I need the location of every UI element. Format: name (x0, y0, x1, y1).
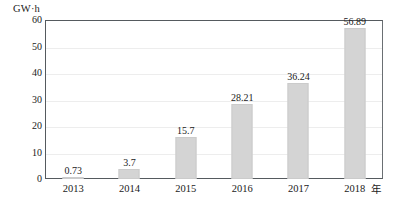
bar-value-label: 56.89 (344, 16, 367, 27)
x-tick-label: 2017 (270, 182, 326, 195)
y-axis-tick-labels: 0102030405060 (5, 20, 42, 179)
bar (175, 137, 196, 179)
bar-value-label: 0.73 (64, 165, 82, 176)
x-tick-label: 2014 (101, 182, 157, 195)
y-tick-label: 0 (10, 174, 42, 184)
bar-group: 56.89 (327, 20, 383, 179)
bar (63, 177, 84, 179)
bar-group: 15.7 (158, 20, 214, 179)
y-tick-label: 50 (10, 42, 42, 52)
bar-group: 0.73 (45, 20, 101, 179)
y-tick-label: 30 (10, 95, 42, 105)
x-axis-unit-label: 年 (371, 183, 381, 196)
bar (288, 83, 309, 179)
y-tick-label: 10 (10, 148, 42, 158)
bar-chart: GW·h 0102030405060 0.733.715.728.2136.24… (0, 0, 397, 213)
bars-layer: 0.733.715.728.2136.2456.89 (45, 20, 383, 179)
x-tick-label: 2015 (158, 182, 214, 195)
bar-group: 36.24 (270, 20, 326, 179)
bar-group: 3.7 (101, 20, 157, 179)
y-tick-label: 40 (10, 68, 42, 78)
bar-value-label: 36.24 (287, 71, 310, 82)
y-tick-label: 20 (10, 121, 42, 131)
bar (344, 28, 365, 179)
bar (119, 169, 140, 179)
bar-value-label: 3.7 (123, 157, 136, 168)
x-tick-label: 2016 (214, 182, 270, 195)
y-tick-label: 60 (10, 15, 42, 25)
bar (232, 104, 253, 179)
bar-group: 28.21 (214, 20, 270, 179)
x-tick-label: 2013 (45, 182, 101, 195)
bar-value-label: 15.7 (177, 125, 195, 136)
x-axis-tick-labels: 201320142015201620172018 (45, 182, 383, 198)
bar-value-label: 28.21 (231, 92, 254, 103)
